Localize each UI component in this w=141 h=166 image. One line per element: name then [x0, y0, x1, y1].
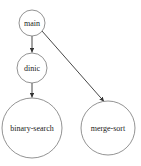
call-graph: main dinic binary-search merge-sort — [0, 0, 141, 166]
edge-main-merge-sort — [42, 31, 104, 102]
node-main[interactable]: main — [19, 10, 45, 36]
node-label-dinic: dinic — [24, 64, 40, 73]
node-merge-sort[interactable]: merge-sort — [81, 101, 135, 155]
node-binary-search[interactable]: binary-search — [2, 98, 62, 158]
node-label-merge-sort: merge-sort — [91, 124, 126, 133]
node-label-binary-search: binary-search — [10, 124, 54, 133]
node-label-main: main — [24, 19, 40, 28]
node-dinic[interactable]: dinic — [17, 53, 47, 83]
